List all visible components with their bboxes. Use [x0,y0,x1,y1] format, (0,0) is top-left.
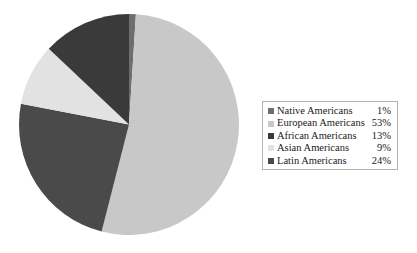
pie-slice-group [19,14,239,235]
legend-label-african-americans: African Americans [277,130,368,142]
legend-item: European Americans 53% [268,117,391,129]
legend-item: Latin Americans 24% [268,155,391,167]
legend-item: Native Americans 1% [268,105,391,117]
legend-label-asian-americans: Asian Americans [277,142,373,154]
legend-label-latin-americans: Latin Americans [277,155,368,167]
pie-chart [19,14,239,235]
legend-label-european-americans: European Americans [277,117,368,129]
legend-item: African Americans 13% [268,130,391,142]
legend-swatch-native-americans [268,108,274,114]
pie-chart-svg [19,14,239,235]
legend-swatch-european-americans [268,121,274,127]
pie-chart-figure: Native Americans 1% European Americans 5… [0,0,417,253]
legend-swatch-african-americans [268,133,274,139]
legend-item: Asian Americans 9% [268,142,391,154]
legend-swatch-asian-americans [268,145,274,151]
legend-swatch-latin-americans [268,158,274,164]
legend-value-latin-americans: 24% [368,155,391,167]
legend-value-native-americans: 1% [373,105,391,117]
legend-value-european-americans: 53% [368,117,391,129]
legend-label-native-americans: Native Americans [277,105,373,117]
chart-legend: Native Americans 1% European Americans 5… [262,101,398,170]
legend-value-asian-americans: 9% [373,142,391,154]
legend-value-african-americans: 13% [368,130,391,142]
